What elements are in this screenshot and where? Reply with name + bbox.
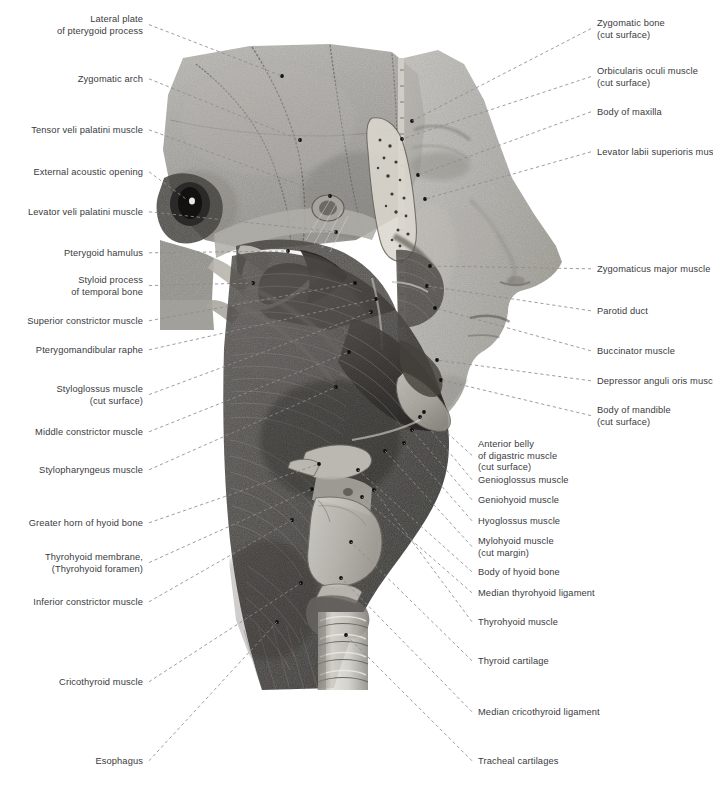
- label-thyroid-cartilage: Thyroid cartilage: [478, 656, 713, 668]
- label-levator-labii-superioris: Levator labii superioris muscle: [597, 147, 713, 159]
- label-middle-constrictor: Middle constrictor muscle: [0, 427, 143, 439]
- label-zygomatic-arch: Zygomatic arch: [0, 74, 143, 86]
- label-external-acoustic-opening: External acoustic opening: [0, 167, 143, 179]
- label-thyrohyoid-membrane: Thyrohyoid membrane, (Thyrohyoid foramen…: [0, 552, 143, 575]
- label-orbicularis-oculi: Orbicularis oculi muscle (cut surface): [597, 66, 713, 89]
- label-stylopharyngeus: Stylopharyngeus muscle: [0, 465, 143, 477]
- label-depressor-anguli-oris: Depressor anguli oris muscle: [597, 376, 713, 388]
- label-median-cricothyroid-ligament: Median cricothyroid ligament: [478, 707, 713, 719]
- label-pterygoid-hamulus: Pterygoid hamulus: [0, 248, 143, 260]
- label-geniohyoid: Geniohyoid muscle: [478, 495, 713, 507]
- label-cricothyroid: Cricothyroid muscle: [0, 677, 143, 689]
- label-hyoglossus: Hyoglossus muscle: [478, 516, 713, 528]
- label-levator-veli-palatini: Levator veli palatini muscle: [0, 207, 143, 219]
- label-body-of-mandible: Body of mandible (cut surface): [597, 405, 713, 428]
- label-styloid-process: Styloid process of temporal bone: [0, 275, 143, 298]
- label-body-of-hyoid: Body of hyoid bone: [478, 567, 713, 579]
- label-styloglossus: Styloglossus muscle (cut surface): [0, 384, 143, 407]
- label-inferior-constrictor: Inferior constrictor muscle: [0, 597, 143, 609]
- label-genioglossus: Genioglossus muscle: [478, 475, 713, 487]
- label-thyrohyoid-muscle: Thyrohyoid muscle: [478, 617, 713, 629]
- label-body-of-maxilla: Body of maxilla: [597, 107, 713, 119]
- label-lateral-plate-pterygoid: Lateral plate of pterygoid process: [0, 14, 143, 37]
- anatomical-plate: Lateral plate of pterygoid processZygoma…: [0, 0, 713, 789]
- label-greater-horn-hyoid: Greater horn of hyoid bone: [0, 518, 143, 530]
- label-zygomaticus-major: Zygomaticus major muscle: [597, 264, 713, 276]
- label-esophagus: Esophagus: [0, 756, 143, 768]
- label-mylohyoid: Mylohyoid muscle (cut margin): [478, 536, 713, 559]
- label-superior-constrictor: Superior constrictor muscle: [0, 316, 143, 328]
- label-median-thyrohyoid-ligament: Median thyrohyoid ligament: [478, 588, 713, 600]
- label-zygomatic-bone: Zygomatic bone (cut surface): [597, 18, 713, 41]
- label-parotid-duct: Parotid duct: [597, 306, 713, 318]
- label-tensor-veli-palatini: Tensor veli palatini muscle: [0, 125, 143, 137]
- label-buccinator: Buccinator muscle: [597, 346, 713, 358]
- trachea-group: [318, 612, 368, 690]
- label-pterygomandibular-raphe: Pterygomandibular raphe: [0, 345, 143, 357]
- label-anterior-belly-digastric: Anterior belly of digastric muscle (cut …: [478, 439, 713, 474]
- label-tracheal-cartilages: Tracheal cartilages: [478, 756, 713, 768]
